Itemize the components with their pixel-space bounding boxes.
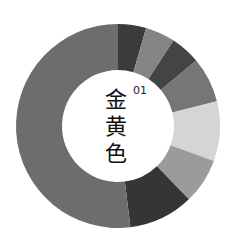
title-char-2: 黄 — [105, 113, 127, 140]
title-char-1: 金 — [105, 86, 127, 113]
index-number: 01 — [133, 84, 147, 97]
title-char-3: 色 — [105, 140, 127, 167]
center-title: 金 黄 色 — [96, 86, 136, 167]
